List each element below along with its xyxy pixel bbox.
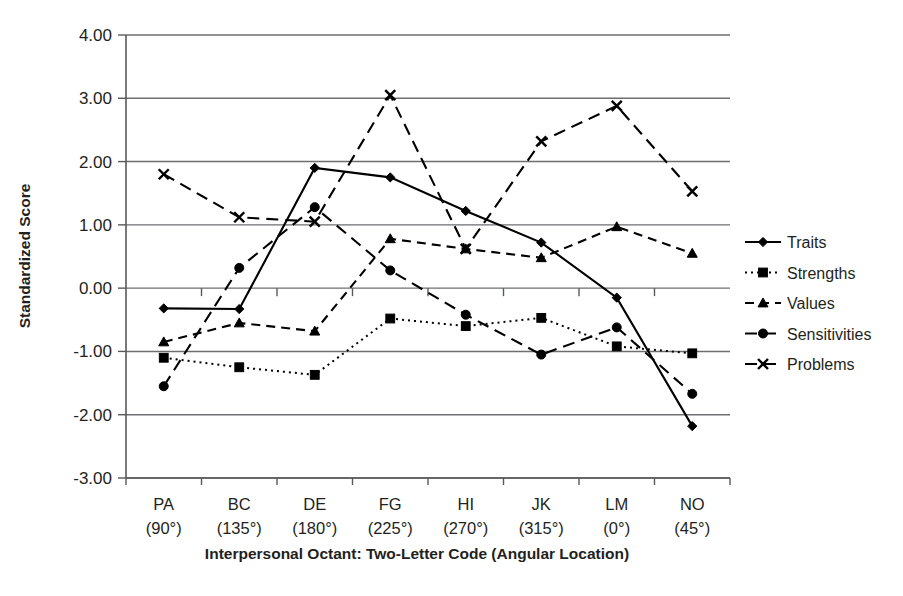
y-tick-labels: 4.003.002.001.000.00-1.00-2.00-3.00: [73, 26, 112, 488]
y-axis-title: Standardized Score: [16, 183, 33, 328]
data-point-traits-NO: [688, 422, 697, 431]
legend-item-strengths[interactable]: Strengths: [745, 265, 855, 282]
data-point-problems-PA: [159, 169, 169, 179]
data-point-sensitivities-HI: [461, 310, 470, 319]
series-line-problems: [164, 95, 693, 249]
data-point-strengths-PA: [159, 353, 168, 362]
data-point-traits-DE: [310, 163, 319, 172]
data-point-problems-JK: [536, 136, 546, 146]
legend-label: Values: [787, 295, 835, 312]
y-gridlines: [126, 35, 730, 478]
data-point-traits-FG: [386, 173, 395, 182]
x-tick-label-code: HI: [458, 495, 475, 513]
x-tick-labels: PA(90°)BC(135°)DE(180°)FG(225°)HI(270°)J…: [146, 495, 710, 537]
x-tick-label-code: BC: [228, 495, 251, 513]
data-point-sensitivities-JK: [537, 350, 546, 359]
data-point-strengths-DE: [310, 370, 319, 379]
x-axis-title: Interpersonal Octant: Two-Letter Code (A…: [205, 545, 629, 562]
data-point-problems-NO: [687, 186, 697, 196]
legend-item-sensitivities[interactable]: Sensitivities: [745, 326, 871, 343]
x-tick-label-angle: (90°): [146, 519, 182, 537]
legend-label: Strengths: [787, 265, 855, 282]
x-tick-label-code: NO: [680, 495, 705, 513]
legend-label: Traits: [787, 234, 826, 251]
x-tick-label-angle: (135°): [217, 519, 262, 537]
data-point-values-LM: [612, 222, 622, 231]
series-lines: [164, 95, 693, 426]
legend-item-problems[interactable]: Problems: [745, 356, 855, 373]
legend-item-values[interactable]: Values: [745, 295, 835, 312]
chart-figure: 4.003.002.001.000.00-1.00-2.00-3.00 PA(9…: [0, 0, 903, 596]
legend-marker-circle: [759, 329, 768, 338]
data-point-traits-PA: [159, 304, 168, 313]
data-point-strengths-JK: [537, 313, 546, 322]
y-tick-label: -3.00: [73, 469, 112, 488]
legend-marker-square: [759, 268, 768, 277]
data-point-traits-HI: [461, 206, 470, 215]
x-tick-label-angle: (270°): [443, 519, 488, 537]
x-tick-label-angle: (45°): [674, 519, 710, 537]
line-chart: 4.003.002.001.000.00-1.00-2.00-3.00 PA(9…: [0, 0, 903, 596]
y-tick-label: 4.00: [79, 26, 112, 45]
legend-label: Problems: [787, 356, 855, 373]
y-tick-label: -1.00: [73, 342, 112, 361]
axis-lines: [126, 35, 730, 478]
y-tick-label: 2.00: [79, 153, 112, 172]
x-tick-label-code: PA: [153, 495, 174, 513]
data-point-sensitivities-BC: [235, 263, 244, 272]
x-tick-label-code: DE: [303, 495, 326, 513]
data-point-strengths-HI: [461, 322, 470, 331]
x-tick-label-code: FG: [379, 495, 402, 513]
y-tick-label: 0.00: [79, 279, 112, 298]
data-point-sensitivities-FG: [386, 266, 395, 275]
data-point-strengths-LM: [612, 342, 621, 351]
x-tickmarks: [126, 288, 730, 485]
x-tick-label-angle: (0°): [603, 519, 630, 537]
legend-marker-diamond: [758, 237, 767, 246]
data-point-strengths-FG: [386, 314, 395, 323]
legend-item-traits[interactable]: Traits: [745, 234, 826, 251]
y-tick-label: 1.00: [79, 216, 112, 235]
series-markers: [159, 90, 698, 431]
chart-legend: TraitsStrengthsValuesSensitivitiesProble…: [745, 234, 871, 373]
y-tick-label: 3.00: [79, 89, 112, 108]
data-point-sensitivities-PA: [159, 382, 168, 391]
x-tick-label-code: JK: [532, 495, 551, 513]
data-point-sensitivities-NO: [688, 389, 697, 398]
x-tick-label-angle: (225°): [368, 519, 413, 537]
data-point-problems-LM: [612, 101, 622, 111]
y-tick-label: -2.00: [73, 406, 112, 425]
data-point-values-NO: [687, 248, 697, 257]
data-point-strengths-NO: [688, 349, 697, 358]
legend-label: Sensitivities: [787, 326, 871, 343]
data-point-strengths-BC: [235, 363, 244, 372]
data-point-problems-BC: [234, 212, 244, 222]
data-point-traits-BC: [235, 304, 244, 313]
y-tickmarks: [118, 35, 126, 478]
x-tick-label-angle: (315°): [519, 519, 564, 537]
x-tick-label-angle: (180°): [292, 519, 337, 537]
x-tick-label-code: LM: [605, 495, 628, 513]
data-point-sensitivities-LM: [612, 323, 621, 332]
data-point-sensitivities-DE: [310, 203, 319, 212]
